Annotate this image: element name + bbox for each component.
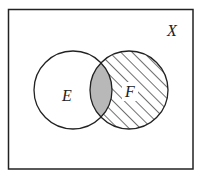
- venn-diagram: X E F: [0, 0, 202, 176]
- universe-label: X: [166, 22, 178, 39]
- set-e-label: E: [61, 87, 72, 104]
- set-f-label: F: [124, 83, 135, 100]
